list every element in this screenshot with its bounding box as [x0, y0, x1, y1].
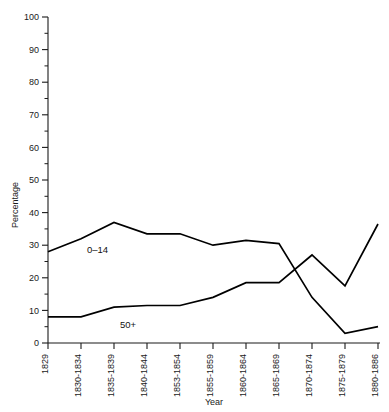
- x-tick-label: 1860-1864: [238, 354, 248, 397]
- series-annotation: 50+: [120, 319, 137, 330]
- x-tick-label: 1835-1839: [106, 354, 116, 397]
- x-tick-label: 1829: [40, 354, 50, 374]
- x-tick-label: 1880-1886: [370, 354, 380, 397]
- y-tick-label: 60: [29, 143, 39, 153]
- x-tick-labels: 18291830-18341835-18391840-18441853-1854…: [40, 354, 380, 397]
- y-tick-label: 70: [29, 110, 39, 120]
- x-axis-title: Year: [205, 397, 223, 407]
- data-series-group: [48, 222, 378, 333]
- y-tick-label: 90: [29, 45, 39, 55]
- x-axis: 18291830-18341835-18391840-18441853-1854…: [40, 343, 380, 407]
- line-chart: 0102030405060708090100 Percentage 182918…: [0, 0, 389, 412]
- y-tick-label: 100: [24, 12, 39, 22]
- x-tick-label: 1830-1834: [73, 354, 83, 397]
- chart-page: 0102030405060708090100 Percentage 182918…: [0, 0, 389, 412]
- y-tick-label: 80: [29, 77, 39, 87]
- series-line-50-: [48, 224, 378, 317]
- y-tick-label: 50: [29, 175, 39, 185]
- y-axis-title: Percentage: [10, 182, 20, 228]
- x-tick-marks: [48, 343, 378, 349]
- y-axis: 0102030405060708090100 Percentage: [10, 12, 48, 348]
- y-tick-label: 20: [29, 273, 39, 283]
- x-tick-label: 1840-1844: [139, 354, 149, 397]
- y-tick-label: 0: [34, 338, 39, 348]
- series-annotations: 0–1450+: [87, 244, 137, 330]
- y-tick-marks: [42, 17, 48, 343]
- x-tick-label: 1865-1869: [271, 354, 281, 397]
- y-tick-labels: 0102030405060708090100: [24, 12, 39, 348]
- series-annotation: 0–14: [87, 244, 108, 255]
- series-line-0-14: [48, 222, 378, 333]
- x-tick-label: 1855-1859: [205, 354, 215, 397]
- x-tick-label: 1875-1879: [337, 354, 347, 397]
- x-tick-label: 1870-1874: [304, 354, 314, 397]
- y-tick-label: 10: [29, 306, 39, 316]
- y-tick-label: 30: [29, 240, 39, 250]
- y-tick-label: 40: [29, 208, 39, 218]
- x-tick-label: 1853-1854: [172, 354, 182, 397]
